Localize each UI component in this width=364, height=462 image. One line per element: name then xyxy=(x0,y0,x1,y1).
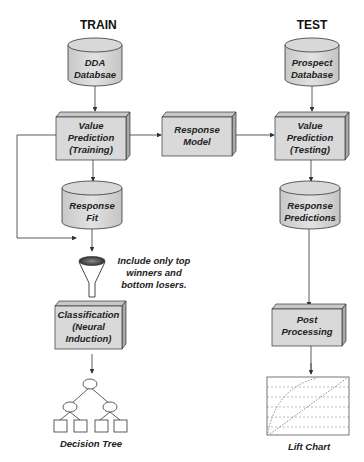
response-fit-label: Response Fit xyxy=(62,200,122,224)
filter-note: Include only top winners and bottom lose… xyxy=(110,255,198,291)
tree-icon xyxy=(54,379,127,432)
value-prediction-training-label: Value Prediction (Training) xyxy=(56,120,126,156)
post-processing-label: Post Processing xyxy=(272,314,342,338)
response-model-label: Response Model xyxy=(162,124,232,148)
chart-icon xyxy=(267,377,349,435)
response-predictions-label: Response Predictions xyxy=(278,200,342,224)
prospect-database-label: Prospect Database xyxy=(283,57,341,81)
test-header: TEST xyxy=(290,18,334,32)
lift-chart-caption: Lift Chart xyxy=(270,441,348,453)
classification-label: Classification (Neural Induction) xyxy=(53,309,124,345)
dda-database-label: DDA Databsae xyxy=(66,57,124,81)
decision-tree-caption: Decision Tree xyxy=(50,438,132,450)
value-prediction-testing-label: Value Prediction (Testing) xyxy=(275,120,345,156)
train-header: TRAIN xyxy=(80,18,140,32)
funnel-icon xyxy=(79,257,105,298)
